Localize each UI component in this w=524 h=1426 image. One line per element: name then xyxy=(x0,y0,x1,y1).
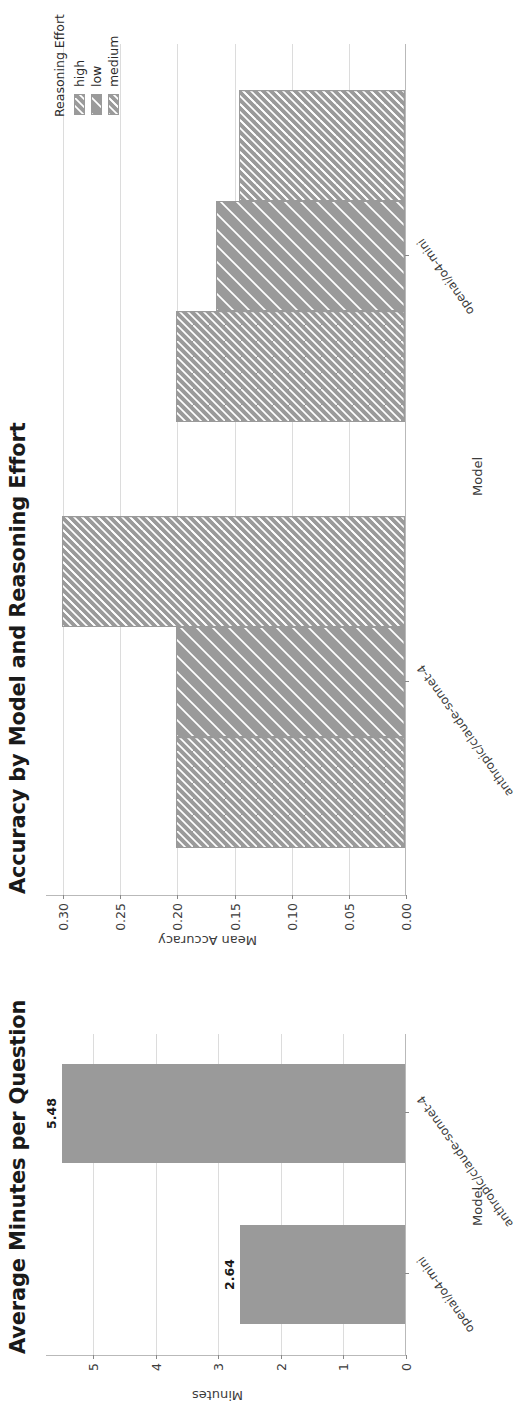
x-axis-category-label: anthropic/claude-sonnet-4 xyxy=(414,1093,516,1230)
y-axis-tick xyxy=(218,1355,219,1359)
y-axis-tick-label: 0.20 xyxy=(170,903,185,931)
x-axis-label-minutes: Model xyxy=(470,1187,485,1226)
y-axis-tick-label: 0.10 xyxy=(284,903,299,931)
bar-minutes xyxy=(62,1064,405,1164)
y-axis-tick xyxy=(343,1355,344,1359)
legend-swatch-low xyxy=(91,94,102,115)
y-axis-tick xyxy=(235,895,236,899)
y-axis-tick xyxy=(63,895,64,899)
plot-area-accuracy: 0.000.050.100.150.200.250.30anthropic/cl… xyxy=(46,44,406,896)
x-axis-label-accuracy: Model xyxy=(470,457,485,496)
y-axis-label-minutes: Minutes xyxy=(173,1388,263,1403)
y-axis-label-accuracy: Mean Accuracy xyxy=(148,933,268,948)
y-axis-tick xyxy=(292,895,293,899)
x-axis-category-label: openai/o4-mini xyxy=(414,236,477,318)
y-axis-tick-label: 5 xyxy=(85,1363,100,1371)
x-axis-tick xyxy=(405,1274,409,1275)
legend-swatch-high xyxy=(74,94,85,115)
rotated-figure-stage: Average Minutes per Question 0123452.645… xyxy=(0,0,524,1426)
legend-item-low: low xyxy=(89,14,104,115)
y-axis-tick xyxy=(156,1355,157,1359)
chart-average-minutes-per-question: Average Minutes per Question 0123452.645… xyxy=(0,1006,524,1426)
bar-minutes xyxy=(240,1225,405,1325)
y-axis-tick xyxy=(120,895,121,899)
x-axis-category-label: openai/o4-mini xyxy=(414,1254,477,1336)
legend-entries: highlowmedium xyxy=(72,14,121,117)
bar-accuracy-medium xyxy=(239,90,405,201)
x-axis-tick xyxy=(405,681,409,682)
legend-label: medium xyxy=(106,36,121,87)
y-axis-tick-label: 0.25 xyxy=(113,903,128,931)
y-axis-tick-label: 1 xyxy=(336,1363,351,1371)
y-axis-tick-label: 4 xyxy=(148,1363,163,1371)
chart-title-minutes: Average Minutes per Question xyxy=(6,1000,30,1354)
legend-title: Reasoning Effort xyxy=(52,14,67,117)
y-axis-tick-label: 0.15 xyxy=(227,903,242,931)
y-axis-tick-label: 0 xyxy=(399,1363,414,1371)
bar-accuracy-high xyxy=(176,311,405,422)
bar-accuracy-low xyxy=(216,201,405,312)
bar-accuracy-low xyxy=(176,627,405,738)
y-axis-tick-label: 0.05 xyxy=(341,903,356,931)
x-axis-tick xyxy=(405,255,409,256)
y-axis-tick xyxy=(93,1355,94,1359)
bar-value-label: 2.64 xyxy=(222,1259,237,1290)
legend-reasoning-effort: Reasoning Effort highlowmedium xyxy=(52,14,123,117)
gridline xyxy=(120,44,121,895)
y-axis-tick xyxy=(406,895,407,899)
bar-accuracy-high xyxy=(176,737,405,848)
chart-accuracy-by-model-and-reasoning-effort: Accuracy by Model and Reasoning Effort 0… xyxy=(0,0,524,1006)
chart-title-accuracy: Accuracy by Model and Reasoning Effort xyxy=(6,423,30,894)
y-axis-tick-label: 0.00 xyxy=(399,903,414,931)
plot-area-minutes: 0123452.645.48openai/o4-minianthropic/cl… xyxy=(46,1034,406,1356)
y-axis-tick-label: 0.30 xyxy=(56,903,71,931)
y-axis-tick-label: 3 xyxy=(211,1363,226,1371)
y-axis-tick xyxy=(177,895,178,899)
gridline xyxy=(63,44,64,895)
y-axis-tick xyxy=(281,1355,282,1359)
x-axis-tick xyxy=(405,1113,409,1114)
legend-label: high xyxy=(72,60,87,87)
y-axis-tick xyxy=(406,1355,407,1359)
y-axis-tick xyxy=(349,895,350,899)
legend-label: low xyxy=(89,66,104,87)
legend-item-medium: medium xyxy=(106,14,121,115)
bar-value-label: 5.48 xyxy=(44,1098,59,1129)
bar-accuracy-medium xyxy=(62,516,405,627)
x-axis-category-label: anthropic/claude-sonnet-4 xyxy=(414,662,516,799)
y-axis-tick-label: 2 xyxy=(273,1363,288,1371)
legend-item-high: high xyxy=(72,14,87,115)
legend-swatch-medium xyxy=(108,94,119,115)
figure-panels: Average Minutes per Question 0123452.645… xyxy=(0,0,524,1426)
